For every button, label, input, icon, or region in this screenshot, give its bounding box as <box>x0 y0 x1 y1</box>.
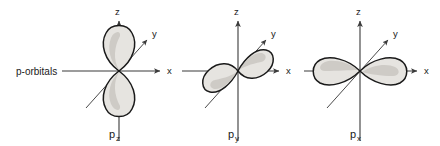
pz-lobe-lower <box>103 71 134 117</box>
py-x-axis-label: x <box>286 65 291 76</box>
px-orbital-subscript: x <box>357 134 361 143</box>
py-orbital-name: p <box>228 128 234 140</box>
px-y-axis-label: y <box>393 28 398 39</box>
pz-x-axis-label: x <box>167 65 172 76</box>
pz-lobe-upper <box>103 26 134 72</box>
py-y-axis-label: y <box>271 28 276 39</box>
p-orbitals-figure: p-orbitals x z y p z <box>0 0 440 146</box>
pz-orbital-subscript: z <box>116 134 120 143</box>
py-orbital-subscript: y <box>235 134 239 143</box>
pz-orbital-name: p <box>109 128 115 140</box>
orbital-diagram-pz: x z y p z <box>62 6 172 143</box>
orbital-diagram-px: x z y p x <box>304 6 429 143</box>
orbital-diagram-py: x z y p y <box>182 6 291 143</box>
px-orbital-name: p <box>350 128 356 140</box>
px-x-axis-label: x <box>424 65 429 76</box>
pz-z-axis-label: z <box>115 6 120 17</box>
pz-y-axis-label: y <box>152 28 157 39</box>
px-z-axis-label: z <box>356 6 361 17</box>
row-label-p-orbitals: p-orbitals <box>16 66 57 77</box>
py-z-axis-label: z <box>234 6 239 17</box>
